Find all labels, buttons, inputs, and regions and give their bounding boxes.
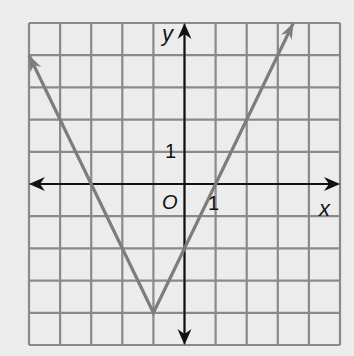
origin-label: O [162, 191, 178, 214]
x-tick-label-1: 1 [208, 192, 219, 215]
function-graph-line [29, 23, 293, 313]
y-axis-label: y [162, 21, 173, 47]
x-axis-label: x [319, 196, 330, 222]
y-tick-label-1: 1 [165, 140, 176, 163]
coordinate-plane [0, 0, 354, 356]
